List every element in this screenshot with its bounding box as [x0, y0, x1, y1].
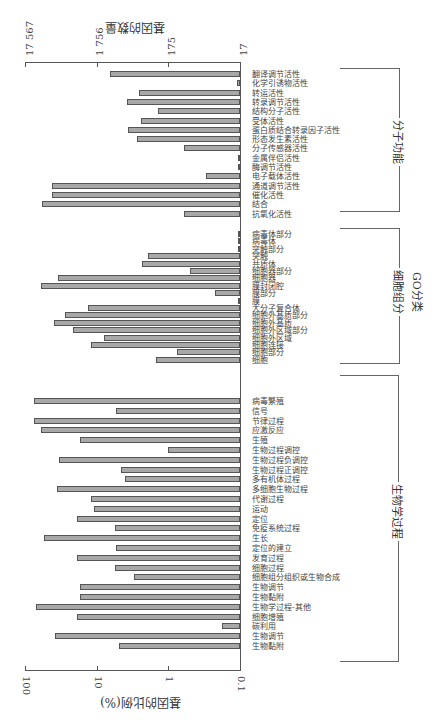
category-label: 转运活性 — [252, 89, 284, 98]
category-label: 生物过程调控 — [252, 446, 300, 455]
bar — [137, 136, 240, 142]
bar — [238, 298, 240, 304]
percent-axis-tick — [97, 666, 98, 671]
count-tick-label: 175 — [166, 37, 177, 56]
bar — [238, 238, 240, 244]
bar — [148, 253, 240, 259]
category-label: 定位 — [252, 515, 268, 524]
bar — [115, 525, 240, 531]
percent-tick-label: 0.1 — [236, 676, 247, 692]
count-axis-tick — [25, 62, 26, 67]
go-classification-chart: 17 567 1 756 175 17 基因的数量 100 10 1 0.1 基… — [0, 0, 435, 723]
bar — [41, 427, 240, 433]
category-label: 蛋白质结合转录因子活性 — [252, 126, 340, 135]
category-label: 生物黏附 — [252, 642, 284, 651]
bar — [238, 246, 240, 252]
group-label-cellular-component: 细胞组分 — [391, 268, 407, 316]
bar — [238, 164, 240, 170]
bar — [77, 516, 240, 522]
bar — [115, 565, 240, 571]
category-label: 形态发生素活性 — [252, 135, 308, 144]
bar — [34, 418, 240, 424]
category-label: 结合 — [252, 200, 268, 209]
bar — [91, 496, 240, 502]
category-label: 转录调节活性 — [252, 98, 300, 107]
category-label: 应激反应 — [252, 426, 284, 435]
bar — [52, 192, 240, 198]
category-label: 生物学过程-其他 — [252, 603, 311, 612]
group-label-biological-process: 生物学过程 — [390, 482, 406, 541]
bar — [58, 275, 240, 281]
bar — [94, 506, 240, 512]
bar — [142, 261, 240, 267]
category-label: 病毒繁殖 — [252, 397, 284, 406]
bar — [177, 349, 240, 355]
category-label: 化学引诱物活性 — [252, 79, 308, 88]
category-label: 翻译调节活性 — [252, 70, 300, 79]
bar — [222, 623, 240, 629]
bar — [127, 99, 240, 105]
category-label: 定位的建立 — [252, 544, 292, 553]
bar — [139, 90, 240, 96]
category-label: 生物黏附 — [252, 593, 284, 602]
category-label: 多细胞生物过程 — [252, 485, 308, 494]
category-label: 生长 — [252, 534, 268, 543]
bar — [141, 118, 240, 124]
bar — [65, 312, 240, 318]
category-label: 生物过程负调控 — [252, 456, 308, 465]
category-label: 多有机体过程 — [252, 475, 300, 484]
bar — [88, 305, 240, 311]
category-label: 免疫系统过程 — [252, 524, 300, 533]
percent-tick-label: 1 — [164, 676, 175, 682]
bar — [57, 486, 240, 492]
category-label: 细胞 — [252, 356, 268, 365]
bar — [44, 535, 240, 541]
bar — [77, 614, 240, 620]
bar — [134, 574, 240, 580]
bar — [116, 408, 240, 414]
bar — [128, 127, 240, 133]
category-label: 细胞增殖 — [252, 613, 284, 622]
count-axis-title: 基因的数量 — [105, 20, 165, 37]
bar — [116, 545, 240, 551]
bar — [73, 327, 240, 333]
category-label: 受体活性 — [252, 117, 284, 126]
bar — [91, 342, 240, 348]
category-label: 代谢过程 — [252, 495, 284, 504]
bar — [190, 268, 240, 274]
category-label: 酶调节活性 — [252, 163, 292, 172]
bar — [121, 467, 240, 473]
percent-tick-label: 10 — [93, 676, 104, 689]
category-label: 生物调节 — [252, 632, 284, 641]
percent-tick-label: 100 — [21, 676, 32, 695]
bar — [206, 173, 240, 179]
bar — [119, 643, 240, 649]
category-label: 催化活性 — [252, 191, 284, 200]
bar — [59, 457, 240, 463]
percent-axis-line — [25, 670, 240, 671]
percent-axis-tick — [25, 666, 26, 671]
bar — [168, 447, 240, 453]
count-axis-tick — [97, 62, 98, 67]
bar — [54, 320, 240, 326]
bar — [125, 476, 240, 482]
bar — [184, 145, 240, 151]
category-label: 结构分子活性 — [252, 107, 300, 116]
count-axis-line — [25, 62, 240, 63]
bar — [156, 357, 240, 363]
bar — [36, 604, 240, 610]
bar — [80, 584, 240, 590]
category-label: 生物过程正调控 — [252, 466, 308, 475]
category-label: 电子载体活性 — [252, 172, 300, 181]
bar — [104, 335, 240, 341]
category-label: 信号 — [252, 407, 268, 416]
bar — [158, 108, 240, 114]
category-label: 生物调节 — [252, 583, 284, 592]
category-label: 运动 — [252, 505, 268, 514]
bar — [184, 211, 240, 217]
category-label: 抗氧化活性 — [252, 210, 292, 219]
count-tick-label: 17 — [238, 43, 249, 56]
category-label: 通道调节活性 — [252, 182, 300, 191]
category-label: 细胞组分组织或生物合成 — [252, 573, 340, 582]
bar — [52, 183, 240, 189]
